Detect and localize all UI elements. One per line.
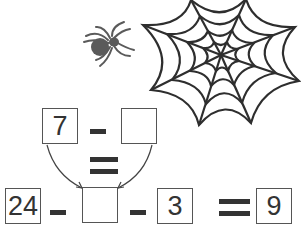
minus-sign — [50, 210, 66, 215]
spider-web-icon — [143, 0, 299, 125]
equals-sign-bottom-bar — [219, 211, 250, 216]
value-box-3: 3 — [157, 188, 193, 224]
empty-answer-box-middle[interactable] — [82, 187, 118, 223]
equals-sign-top-bar — [219, 199, 250, 204]
value-box-9: 9 — [256, 188, 292, 224]
minus-sign — [130, 210, 146, 215]
value-text: 9 — [266, 193, 281, 220]
minus-sign — [90, 129, 106, 134]
value-box-24: 24 — [5, 188, 41, 224]
value-box-7: 7 — [42, 108, 78, 144]
value-text: 24 — [8, 193, 38, 220]
value-text: 7 — [52, 113, 67, 140]
spider-icon — [84, 22, 134, 66]
value-text: 3 — [167, 193, 182, 220]
equals-sign-top-bar — [90, 157, 118, 162]
empty-answer-box-top[interactable] — [121, 108, 157, 144]
arrow-icon — [47, 145, 152, 188]
equals-sign-bottom-bar — [90, 169, 118, 174]
